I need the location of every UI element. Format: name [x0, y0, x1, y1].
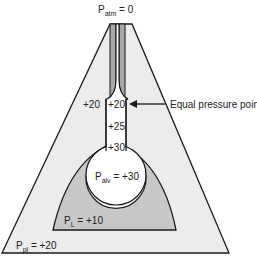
airway-mid-pressure: +25 [108, 121, 125, 132]
airway-epp-pressure: +20 [108, 99, 125, 110]
equal-pressure-point-label: Equal pressure point [170, 99, 257, 110]
equal-pressure-point-diagram: Patm = 0 +20 +20 +25 +30 Palv = +30 PL =… [0, 0, 257, 259]
pleural-upper-pressure: +20 [83, 99, 100, 110]
p-atm-label: Patm = 0 [98, 4, 134, 17]
airway-low-pressure: +30 [108, 142, 125, 153]
